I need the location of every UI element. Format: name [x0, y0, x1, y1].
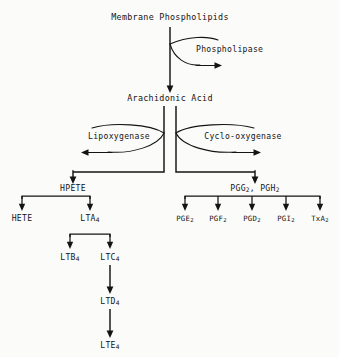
ltc4-subscript: 4: [116, 255, 120, 262]
txa2-subscript: 2: [325, 217, 329, 223]
arrowhead-cyclooxygenase: [254, 149, 262, 156]
enzyme-label-cyclo-oxygenase: Cyclo-oxygenase: [204, 131, 282, 141]
pgf2-base: PGF: [209, 214, 223, 223]
node-txa2: TxA2: [311, 214, 329, 223]
arrowhead-lipoxygenase: [81, 149, 89, 156]
pgi2-subscript: 2: [291, 217, 295, 223]
enzyme-label-lipoxygenase: Lipoxygenase: [88, 131, 150, 141]
prostanoid-branch-arrows: [182, 196, 323, 211]
node-pgi2: PGI2: [277, 214, 295, 223]
bracket-lta4-split: [70, 234, 110, 237]
node-ltc4: LTC4: [100, 252, 120, 262]
pathway-diagram: Membrane Phospholipids Phospholipase Ara…: [0, 0, 339, 357]
node-pgf2: PGF2: [209, 214, 227, 223]
arrowhead-to-ltc4: [107, 242, 113, 249]
pgf2-subscript: 2: [223, 217, 227, 223]
arrowhead-to-lta4: [87, 204, 93, 211]
phospholipase-loop-upper: [170, 37, 218, 44]
node-membrane-phospholipids: Membrane Phospholipids: [111, 12, 229, 22]
arrowhead-to-arachidonic-acid: [167, 86, 174, 94]
node-arachidonic-acid: Arachidonic Acid: [127, 93, 212, 103]
arrowhead-to-ltd4: [107, 287, 114, 295]
pathway-svg: Membrane Phospholipids Phospholipase Ara…: [0, 0, 339, 357]
arrowhead-to-pge2: [182, 204, 188, 211]
ltb4-subscript: 4: [76, 255, 80, 262]
node-lte4: LTE4: [100, 340, 120, 350]
arrowhead-to-pgi2: [283, 204, 289, 211]
node-hete: HETE: [12, 213, 33, 223]
arrowhead-to-ltb4: [67, 242, 73, 249]
node-pgd2: PGD2: [243, 214, 261, 223]
lta4-base: LTA: [80, 213, 96, 223]
ltb4-base: LTB: [60, 252, 76, 262]
bracket-hpete-split: [22, 196, 90, 199]
arrowhead-to-pgf2: [215, 204, 221, 211]
pgd2-base: PGD: [243, 214, 257, 223]
pgd2-subscript: 2: [257, 217, 261, 223]
arrowhead-to-hete: [19, 204, 25, 211]
pge2-base: PGE: [176, 214, 190, 223]
pge2-subscript: 2: [190, 217, 194, 223]
pgg2-base: PGG: [230, 183, 246, 193]
arrowhead-phospholipase: [215, 62, 223, 69]
pgi2-base: PGI: [277, 214, 291, 223]
node-hpete: HPETE: [60, 183, 86, 193]
pgh2-subscript: 2: [276, 186, 280, 193]
txa2-base: TxA: [311, 214, 325, 223]
ltd4-base: LTD: [100, 296, 116, 306]
lta4-subscript: 4: [96, 216, 100, 223]
node-lta4: LTA4: [80, 213, 100, 223]
arrowhead-to-txa2: [317, 204, 323, 211]
arrowhead-to-pgd2: [249, 204, 255, 211]
node-ltb4: LTB4: [60, 252, 80, 262]
ltc4-base: LTC: [100, 252, 116, 262]
lte4-subscript: 4: [116, 343, 120, 350]
arrowhead-to-lte4: [107, 331, 114, 339]
lte4-base: LTE: [100, 340, 116, 350]
pgg2-separator: , PGH: [250, 183, 276, 193]
node-pge2: PGE2: [176, 214, 194, 223]
ltd4-subscript: 4: [116, 299, 120, 306]
node-ltd4: LTD4: [100, 296, 120, 306]
node-pgg2-pgh2: PGG2, PGH2: [230, 183, 279, 193]
enzyme-label-phospholipase: Phospholipase: [196, 44, 263, 54]
